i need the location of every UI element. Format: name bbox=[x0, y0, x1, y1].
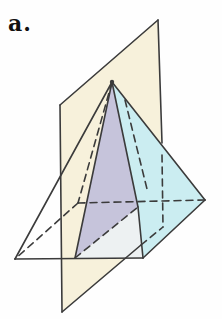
geometry-svg bbox=[0, 0, 222, 319]
figure-label: a. bbox=[8, 10, 32, 36]
geometry-figure: a. bbox=[0, 0, 222, 319]
apex-vertex-dot bbox=[110, 80, 114, 84]
base-front-edge bbox=[15, 258, 143, 259]
